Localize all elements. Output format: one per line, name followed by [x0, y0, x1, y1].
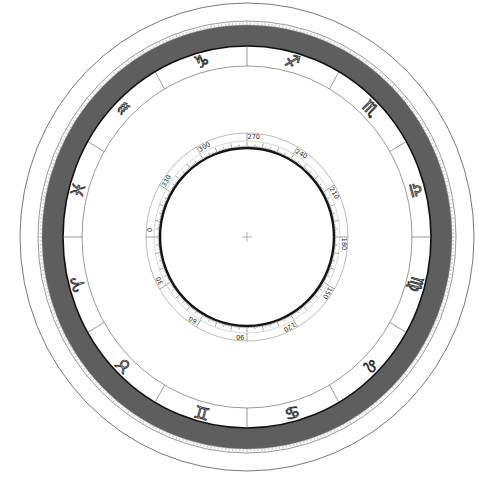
degree-label: 90	[236, 333, 244, 341]
degree-label: 300	[197, 141, 212, 154]
degree-label: 240	[294, 148, 309, 161]
zodiac-sagittarius-icon: ♐	[282, 50, 302, 73]
zodiac-capricorn-icon: ♑	[192, 50, 212, 73]
zodiac-aries-icon: ♈	[66, 274, 89, 294]
degree-label: 150	[321, 286, 334, 301]
zodiac-pisces-icon: ♓	[66, 180, 89, 200]
zodiac-divider-line	[390, 323, 406, 333]
zodiac-diagram: ♑♐♏♎♍♌♋♊♉♈♓♒ 030609012015018021024027030…	[0, 0, 479, 483]
zodiac-divider-line	[155, 72, 165, 89]
zodiac-libra-icon: ♎	[404, 180, 427, 200]
degree-label: 0	[146, 228, 154, 232]
degree-label: 60	[187, 314, 198, 325]
zodiac-wheel: ♑♐♏♎♍♌♋♊♉♈♓♒ 030609012015018021024027030…	[0, 0, 479, 483]
zodiac-gemini-icon: ♊	[192, 401, 212, 424]
zodiac-divider-line	[330, 72, 340, 89]
degree-label: 180	[340, 238, 348, 250]
zodiac-virgo-icon: ♍	[404, 274, 427, 294]
zodiac-divider-line	[88, 142, 104, 152]
degree-label: 30	[154, 275, 165, 286]
zodiac-divider-line	[88, 323, 104, 333]
center-crosshair-icon	[242, 232, 252, 242]
degree-label: 330	[160, 174, 173, 189]
degree-label: 210	[328, 186, 341, 201]
zodiac-cancer-icon: ♋	[282, 401, 302, 424]
degree-label: 120	[282, 320, 297, 333]
zodiac-divider-line	[155, 385, 165, 402]
zodiac-divider-line	[390, 142, 406, 152]
zodiac-divider-line	[330, 385, 340, 402]
degree-label: 270	[248, 133, 260, 141]
